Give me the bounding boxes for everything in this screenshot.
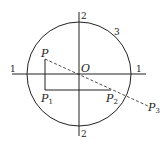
- label-axis-right: 1: [136, 64, 142, 74]
- label-axis-bottom: 2: [81, 129, 87, 139]
- label-p3: P3: [147, 101, 160, 115]
- dashed-line-p-p3: [45, 59, 148, 106]
- label-origin: O: [81, 62, 90, 75]
- label-p: P: [40, 47, 49, 60]
- label-circle: 3: [114, 27, 120, 37]
- projection-diagram: 1 1 2 2 3 O P P1 P2 P3: [0, 0, 166, 146]
- label-p1: P1: [40, 92, 53, 106]
- label-p2: P2: [105, 92, 118, 106]
- label-axis-top: 2: [81, 11, 87, 21]
- label-axis-left: 1: [10, 64, 16, 74]
